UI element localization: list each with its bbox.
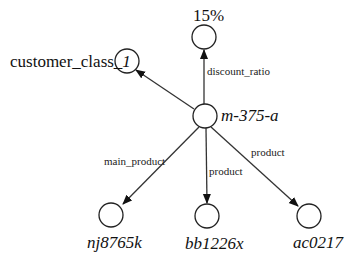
edge-label-product-1: product [209, 165, 243, 177]
edge-label-main-product: main_product [104, 155, 165, 167]
node-label-ac0217: ac0217 [293, 233, 345, 252]
edge-product-1 [206, 128, 207, 203]
node-center [193, 104, 217, 128]
edge-customer-class [136, 70, 194, 109]
node-discount [192, 25, 216, 49]
node-nj8765k [99, 203, 123, 227]
node-label-nj8765k: nj8765k [87, 233, 142, 252]
node-label-bb1226x: bb1226x [185, 234, 244, 253]
cropped-caption-line: ▔▔▔▔▔▔▔▔▔▔▔▔▔▔▔▔▔▔▔▔▔▔▔▔▔▔▔▔▔▔▔▔▔▔▔▔▔▔ [0, 252, 348, 257]
edge-label-product-2: product [251, 146, 285, 158]
graph-diagram: discount_ratio main_product product prod… [0, 0, 348, 257]
node-label-center: m-375-a [221, 106, 279, 125]
node-label-customer-class-suffix: 1 [122, 52, 131, 71]
node-label-customer-class: customer_class_1 [10, 52, 131, 71]
node-bb1226x [195, 204, 219, 228]
node-ac0217 [297, 204, 321, 228]
node-label-customer-class-prefix: customer_class_ [10, 52, 123, 71]
edge-label-discount-ratio: discount_ratio [207, 65, 270, 77]
node-label-discount: 15% [193, 6, 224, 25]
